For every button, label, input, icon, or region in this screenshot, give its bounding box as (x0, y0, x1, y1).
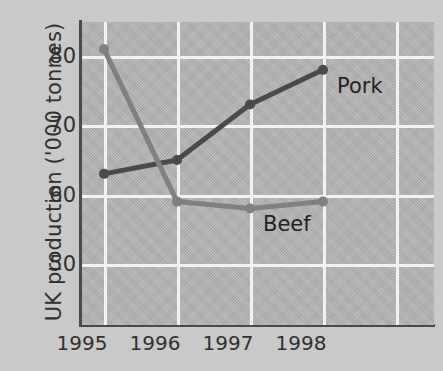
data-point-beef-1995 (99, 44, 109, 54)
chart-figure: UK production ('000 tonnes) 80 70 60 50 … (0, 0, 443, 371)
series-label-beef: Beef (263, 212, 311, 236)
data-point-pork-1998 (318, 65, 328, 75)
plot-area: Pork Beef (82, 22, 434, 325)
data-point-pork-1995 (99, 169, 109, 179)
y-tick-label-50: 50 (32, 252, 76, 276)
data-point-beef-1998 (318, 197, 328, 207)
y-tick-label-70: 70 (32, 113, 76, 137)
series-label-pork: Pork (337, 74, 383, 98)
series-layer (82, 22, 434, 325)
data-point-beef-1997 (245, 204, 255, 214)
x-tick-label-1996: 1996 (120, 331, 190, 355)
x-tick-label-1997: 1997 (193, 331, 263, 355)
x-tick-label-1998: 1998 (266, 331, 336, 355)
data-point-pork-1997 (245, 100, 255, 110)
y-tick-label-80: 80 (32, 44, 76, 68)
data-point-pork-1996 (172, 155, 182, 165)
series-line-beef (104, 49, 323, 208)
x-tick-label-1995: 1995 (47, 331, 117, 355)
data-point-beef-1996 (172, 197, 182, 207)
y-tick-label-60: 60 (32, 183, 76, 207)
y-tick-labels: 80 70 60 50 (26, 0, 76, 371)
